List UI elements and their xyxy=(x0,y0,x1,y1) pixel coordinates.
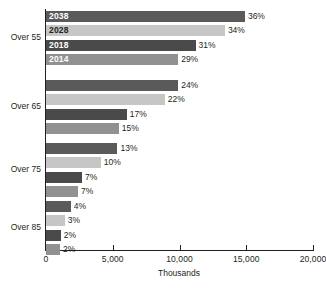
x-tick-mark xyxy=(180,245,181,251)
bar-value-label: 7% xyxy=(85,172,97,183)
bar xyxy=(46,230,61,241)
x-axis-title: Thousands xyxy=(45,268,313,278)
bar-value-label: 4% xyxy=(74,201,86,212)
bar-value-label: 7% xyxy=(81,186,93,197)
bar xyxy=(46,157,101,168)
bar-value-label: 17% xyxy=(130,109,147,120)
bar xyxy=(46,215,65,226)
x-tick-mark xyxy=(113,245,114,251)
bar-value-label: 34% xyxy=(228,25,245,36)
category-label: Over 85 xyxy=(0,222,41,232)
bar xyxy=(46,80,178,91)
bar xyxy=(46,94,165,105)
bar xyxy=(46,201,71,212)
x-tick-label: 0 xyxy=(44,254,49,264)
bar-value-label: 2% xyxy=(63,244,75,255)
bar xyxy=(46,123,119,134)
x-tick-label: 10,000 xyxy=(166,254,193,264)
bar xyxy=(46,109,127,120)
series-name-label: 2018 xyxy=(49,40,69,51)
bar xyxy=(46,186,78,197)
x-tick-label: 20,000 xyxy=(300,254,326,264)
bar xyxy=(46,172,82,183)
bar xyxy=(46,244,60,255)
x-tick-label: 5,000 xyxy=(102,254,124,264)
bar-value-label: 13% xyxy=(120,143,137,154)
bar-value-label: 24% xyxy=(181,80,198,91)
category-label: Over 65 xyxy=(0,101,41,111)
bar-value-label: 22% xyxy=(168,94,185,105)
bar xyxy=(46,143,117,154)
bar-value-label: 36% xyxy=(248,11,265,22)
x-tick-mark xyxy=(313,245,314,251)
category-label: Over 55 xyxy=(0,32,41,42)
bar-value-label: 15% xyxy=(122,123,139,134)
bar-value-label: 31% xyxy=(199,40,216,51)
x-tick-mark xyxy=(246,245,247,251)
series-name-label: 2028 xyxy=(49,25,69,36)
series-name-label: 2014 xyxy=(49,54,69,65)
bar xyxy=(46,25,225,36)
x-tick-label: 15,000 xyxy=(233,254,260,264)
series-name-label: 2038 xyxy=(49,11,69,22)
bar-value-label: 29% xyxy=(181,54,198,65)
bar xyxy=(46,11,245,22)
category-label: Over 75 xyxy=(0,164,41,174)
bar-value-label: 10% xyxy=(104,157,121,168)
bar-value-label: 3% xyxy=(68,215,80,226)
bar-value-label: 2% xyxy=(64,230,76,241)
